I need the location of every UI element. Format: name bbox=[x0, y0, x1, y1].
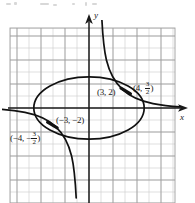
fraction-neg-three-halves: 32 bbox=[31, 131, 36, 147]
point-label-neg4-neg-three-halves: (−4, −32) bbox=[10, 131, 40, 147]
point-label-4-prefix: (4, bbox=[133, 83, 144, 93]
fraction-three-halves: 32 bbox=[145, 81, 150, 97]
coordinate-plane bbox=[0, 0, 195, 203]
graph-figure: y x (3, 2) (4, 32) (−3, −2) (−4, −32) bbox=[0, 0, 195, 203]
point-label-3-2: (3, 2) bbox=[97, 88, 115, 97]
point-label-neg3-neg2: (−3, −2) bbox=[56, 116, 84, 125]
x-axis-label: x bbox=[180, 113, 184, 122]
point-label-neg4-prefix: (−4, − bbox=[10, 133, 31, 143]
point-label-4-three-halves: (4, 32) bbox=[133, 81, 153, 97]
y-axis-label: y bbox=[94, 11, 98, 20]
point-label-neg4-suffix: ) bbox=[37, 133, 40, 143]
point-label-4-suffix: ) bbox=[151, 83, 154, 93]
